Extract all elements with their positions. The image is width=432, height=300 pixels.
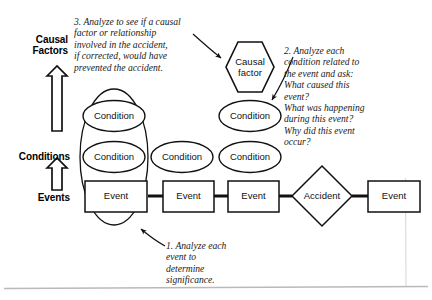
conditions-arrow <box>47 158 67 190</box>
condition-top-left-ellipse <box>83 101 145 132</box>
condition-row-3-ellipse <box>219 142 281 173</box>
diagram-canvas: Causal Factors Conditions Events Causal … <box>0 0 432 300</box>
note-2-text: 2. Analyze each condition related to the… <box>284 45 414 148</box>
note-1-text: 1. Analyze each event to determine signi… <box>166 240 276 286</box>
causal-factor-hexagon <box>226 42 274 92</box>
condition-row-1-ellipse <box>83 142 145 173</box>
note-1-arrow <box>141 229 165 246</box>
event-4-rect <box>368 181 420 212</box>
axis-label-conditions: Conditions <box>0 151 70 162</box>
event-2-rect <box>163 181 214 212</box>
event-3-rect <box>228 181 279 212</box>
axis-label-events: Events <box>0 192 70 203</box>
note-3-text: 3. Analyze to see if a causal factor or … <box>74 16 204 73</box>
event-1-rect <box>85 181 147 212</box>
condition-row-2-ellipse <box>151 142 213 173</box>
axis-label-causal-factors: Causal Factors <box>2 34 68 56</box>
frame-bottom-rule <box>4 287 428 289</box>
condition-top-right-ellipse <box>219 101 281 132</box>
accident-diamond <box>292 166 352 226</box>
causal-factors-arrow <box>47 66 67 131</box>
